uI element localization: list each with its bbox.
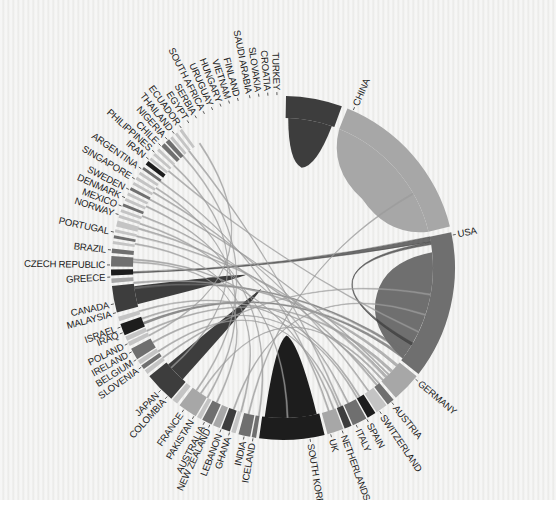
label-tick (229, 433, 230, 436)
arc-norway (113, 241, 135, 247)
label-czech-republic: CZECH REPUBLIC (24, 258, 105, 270)
label-tick (132, 177, 135, 179)
label-tick (180, 126, 182, 128)
arc-india (238, 413, 254, 437)
label-tick (129, 352, 132, 353)
label-tick (111, 231, 114, 232)
label-greece: GREECE (66, 272, 106, 285)
arc-brazil (111, 256, 133, 267)
arc-nigeria (130, 187, 151, 200)
label-tick (172, 131, 174, 133)
arc-czech-republic (111, 269, 133, 275)
label-tick (342, 431, 343, 434)
label-tick (126, 188, 129, 189)
label-tick (356, 425, 357, 428)
label-tick (243, 437, 244, 440)
label-tick (229, 101, 230, 104)
chord-diagram: CHINAUSAGERMANYAUSTRIASWITZERLANDSPAINIT… (0, 0, 556, 500)
label-china: CHINA (350, 76, 372, 108)
label-tick (116, 214, 119, 215)
label-tick (453, 234, 456, 235)
label-tick (139, 367, 141, 369)
arc-greece (111, 277, 133, 283)
label-tick (252, 438, 253, 441)
label-tick (192, 416, 194, 419)
label-tick (237, 98, 238, 101)
label-tick (165, 137, 167, 139)
label-tick (134, 360, 137, 362)
label-tick (139, 167, 141, 169)
label-tick (159, 390, 161, 392)
label-tick (209, 425, 210, 428)
label-tick (159, 144, 161, 146)
arc-ecuador (136, 177, 156, 191)
label-tick (203, 422, 204, 425)
label-tick (220, 430, 221, 433)
arc-mexico (114, 235, 136, 242)
chord-link (288, 118, 332, 168)
label-brazil: BRAZIL (73, 240, 107, 254)
chord-diagram-canvas: CHINAUSAGERMANYAUSTRIASWITZERLANDSPAINIT… (0, 0, 556, 500)
label-uk: UK (327, 438, 341, 454)
label-tick (331, 434, 332, 437)
label-tick (120, 333, 123, 334)
label-tick (392, 402, 394, 404)
label-tick (165, 397, 167, 399)
label-tick (367, 419, 368, 422)
label-tick (195, 116, 197, 119)
label-tick (122, 196, 125, 197)
arc-thailand (133, 182, 154, 195)
label-tick (353, 107, 354, 110)
label-tick (203, 111, 204, 114)
label-tick (211, 107, 212, 110)
chord-links (133, 118, 433, 418)
label-tick (187, 120, 189, 123)
label-tick (146, 157, 148, 159)
label-portugal: PORTUGAL (58, 215, 111, 237)
label-usa: USA (457, 225, 479, 240)
label-tick (182, 410, 184, 412)
chord-link (265, 335, 317, 418)
label-tick (125, 344, 128, 345)
arc-unlabeled (112, 284, 138, 313)
label-tick (111, 304, 114, 305)
label-south-korea: SOUTH KOREA (306, 443, 328, 500)
label-tick (220, 104, 221, 107)
label-germany: GERMANY (416, 378, 460, 417)
label-turkey: TURKEY (270, 52, 282, 91)
figure-caption (0, 500, 556, 518)
label-tick (152, 150, 154, 152)
arc-portugal (112, 249, 134, 255)
label-tick (416, 379, 418, 381)
label-tick (113, 313, 116, 314)
label-tick (118, 327, 121, 328)
label-tick (249, 95, 250, 98)
label-tick (119, 205, 122, 206)
label-tick (380, 411, 382, 413)
